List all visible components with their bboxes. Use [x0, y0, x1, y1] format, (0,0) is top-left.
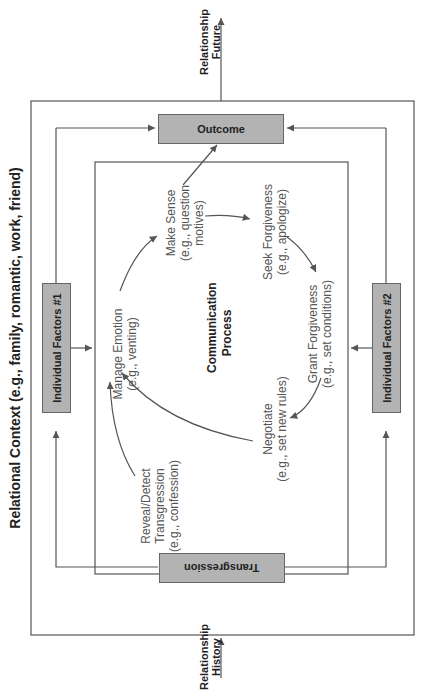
individual-factors-1-label: Individual Factors #1: [51, 293, 63, 402]
outcome-label: Outcome: [197, 123, 245, 135]
individual-factors-2-label: Individual Factors #2: [381, 293, 393, 402]
relationship-history-label: Relationship History: [198, 617, 222, 692]
relationship-future-label: Relationship Future: [198, 2, 222, 82]
communication-process-label: Communication Process: [205, 293, 235, 373]
individual-factors-2-box: Individual Factors #2: [372, 283, 401, 413]
outcome-box: Outcome: [158, 114, 284, 144]
relational-context-title: Relational Context (e.g., family, romant…: [7, 148, 23, 548]
step-reveal-detect: Reveal/Detect Transgression (e.g., confe…: [139, 451, 181, 561]
step-manage-emotion: Manage Emotion (e.g., venting): [111, 299, 139, 409]
step-make-sense: Make Sense (e.g., question motives): [164, 168, 206, 278]
step-grant-forgiveness: Grant Forgiveness (e.g., set conditions): [306, 269, 334, 399]
step-seek-forgiveness: Seek Forgiveness (e.g., apologize): [261, 172, 289, 292]
step-negotiate: Negotiate (e.g., set new rules): [261, 369, 289, 489]
transgression-label: Transgression: [184, 562, 259, 574]
individual-factors-1-box: Individual Factors #1: [42, 283, 71, 413]
